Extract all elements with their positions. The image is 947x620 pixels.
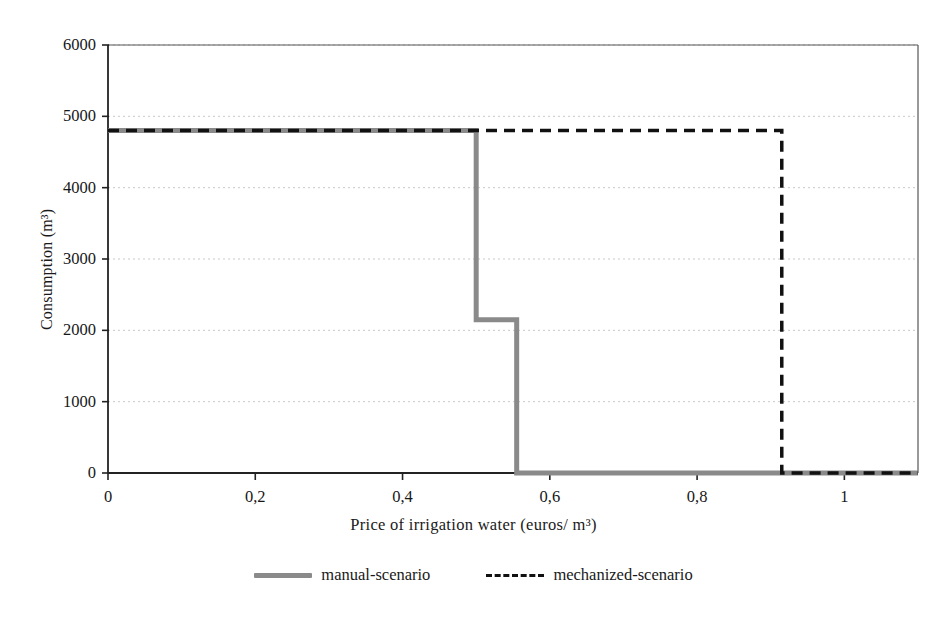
y-tick-label-0: 0: [88, 463, 96, 483]
legend-swatch-solid-line-icon: [254, 573, 312, 578]
legend-label-mechanized-scenario: mechanized-scenario: [553, 565, 692, 585]
x-tick-label-0_4: 0,4: [392, 487, 413, 507]
x-axis-title: Price of irrigation water (euros/ m³): [0, 515, 947, 535]
y-tick-label-3000: 3000: [63, 249, 96, 269]
axis-ticks: [102, 45, 844, 480]
x-tick-label-1: 1: [840, 487, 848, 507]
y-axis-title: Consumption (m³): [38, 209, 56, 330]
y-tick-label-4000: 4000: [63, 178, 96, 198]
x-tick-label-0: 0: [104, 487, 112, 507]
y-tick-label-1000: 1000: [63, 392, 96, 412]
x-tick-label-0_8: 0,8: [687, 487, 708, 507]
x-tick-label-0_6: 0,6: [540, 487, 561, 507]
data-series-layer: [108, 131, 918, 473]
legend-item-manual-scenario[interactable]: manual-scenario: [254, 565, 430, 585]
legend-item-mechanized-scenario[interactable]: mechanized-scenario: [486, 565, 692, 585]
y-tick-label-6000: 6000: [63, 35, 96, 55]
chart-figure: Consumption (m³) Price of irrigation wat…: [0, 0, 947, 620]
legend-swatch-dashed-line-icon: [486, 574, 544, 577]
gridlines: [108, 45, 918, 402]
series-line-manual-scenario: [108, 131, 918, 473]
y-tick-label-2000: 2000: [63, 320, 96, 340]
legend-label-manual-scenario: manual-scenario: [321, 565, 430, 585]
y-tick-label-5000: 5000: [63, 106, 96, 126]
x-tick-label-0_2: 0,2: [245, 487, 266, 507]
chart-legend: manual-scenario mechanized-scenario: [0, 565, 947, 585]
series-line-mechanized-scenario: [108, 131, 918, 473]
